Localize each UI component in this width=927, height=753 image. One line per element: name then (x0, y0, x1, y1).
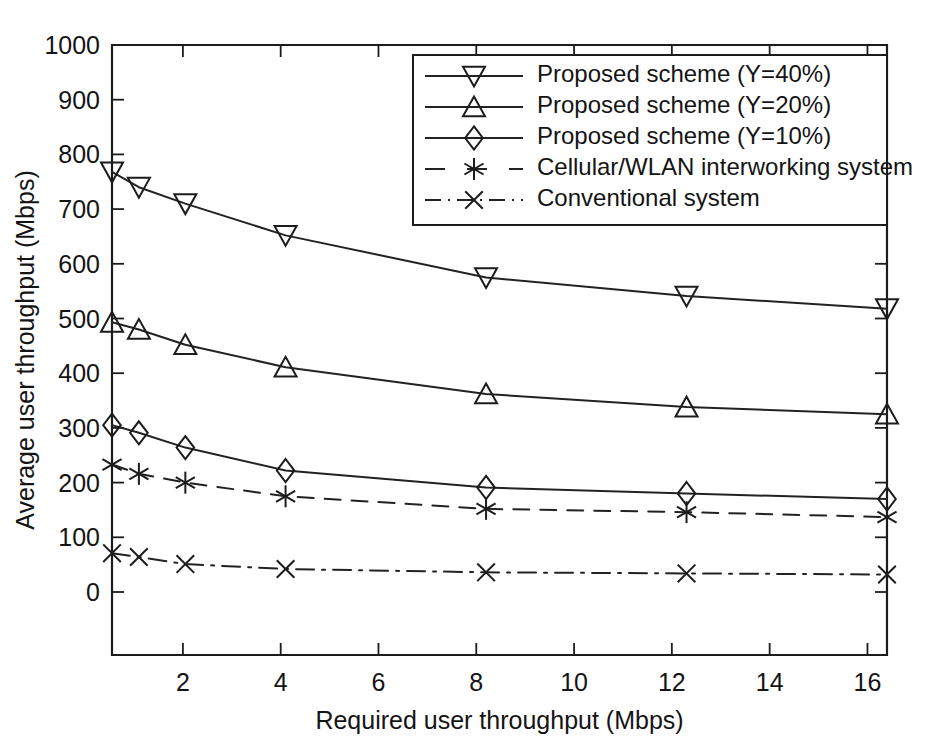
line-chart: 0100200300400500600700800900100024681012… (0, 0, 927, 753)
y-tick-label: 900 (58, 86, 100, 114)
marker-x-icon (130, 548, 148, 566)
series-line (112, 553, 887, 574)
y-tick-label: 800 (58, 140, 100, 168)
y-tick-label: 100 (58, 523, 100, 551)
x-tick-label: 10 (560, 668, 588, 696)
x-tick-label: 6 (372, 668, 386, 696)
x-axis-title: Required user throughput (Mbps) (315, 706, 683, 734)
y-tick-label: 400 (58, 359, 100, 387)
series-line (112, 322, 887, 414)
y-tick-label: 300 (58, 414, 100, 442)
marker-x-icon (277, 560, 295, 578)
x-tick-label: 12 (658, 668, 686, 696)
marker-asterisk-icon (102, 454, 121, 476)
y-axis-title: Average user throughput (Mbps) (11, 170, 39, 529)
series-3 (103, 414, 896, 511)
legend: Proposed scheme (Y=40%)Proposed scheme (… (413, 55, 913, 225)
legend-item-label: Proposed scheme (Y=40%) (537, 60, 831, 87)
x-tick-label: 2 (176, 668, 190, 696)
x-tick-label: 14 (756, 668, 784, 696)
x-tick-label: 4 (274, 668, 288, 696)
y-tick-label: 1000 (44, 31, 100, 59)
y-tick-label: 200 (58, 469, 100, 497)
legend-item-label: Conventional system (537, 184, 760, 211)
x-tick-label: 16 (854, 668, 882, 696)
y-tick-label: 600 (58, 250, 100, 278)
series-2 (101, 312, 898, 424)
series-5 (103, 544, 896, 583)
series-4 (102, 454, 896, 529)
x-tick-label: 8 (469, 668, 483, 696)
series-line (112, 465, 887, 518)
legend-item-label: Proposed scheme (Y=20%) (537, 91, 831, 118)
y-tick-label: 0 (86, 578, 100, 606)
y-tick-label: 700 (58, 195, 100, 223)
legend-item-label: Proposed scheme (Y=10%) (537, 122, 831, 149)
legend-item-label: Cellular/WLAN interworking system (537, 153, 913, 180)
y-tick-label: 500 (58, 305, 100, 333)
marker-asterisk-icon (129, 463, 148, 485)
chart-figure: 0100200300400500600700800900100024681012… (0, 0, 927, 753)
